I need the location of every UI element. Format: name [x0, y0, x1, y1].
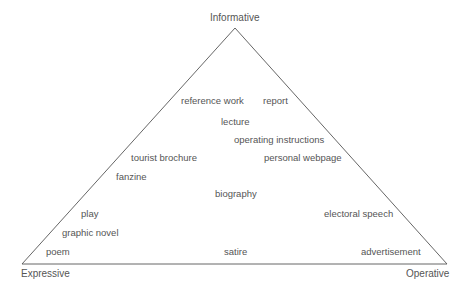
text-type-label: personal webpage	[264, 152, 342, 163]
text-type-label: operating instructions	[234, 134, 324, 145]
text-type-label: play	[81, 208, 98, 219]
vertex-operative: Operative	[406, 268, 449, 279]
text-type-label: advertisement	[361, 246, 421, 257]
text-type-label: fanzine	[116, 171, 147, 182]
text-type-label: reference work	[181, 95, 244, 106]
text-type-label: tourist brochure	[131, 152, 197, 163]
text-type-label: biography	[215, 188, 257, 199]
text-type-label: report	[263, 95, 288, 106]
text-type-label: poem	[46, 246, 70, 257]
text-type-label: electoral speech	[324, 208, 393, 219]
text-type-label: graphic novel	[62, 227, 119, 238]
text-type-label: satire	[224, 246, 247, 257]
text-type-label: lecture	[221, 116, 250, 127]
vertex-expressive: Expressive	[21, 268, 70, 279]
vertex-informative: Informative	[210, 12, 259, 23]
text-type-triangle-diagram: Informative Expressive Operative referen…	[0, 0, 463, 293]
